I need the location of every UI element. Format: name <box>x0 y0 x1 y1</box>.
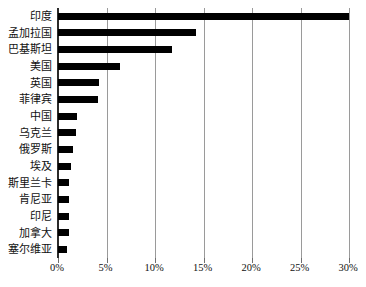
bar <box>58 179 69 186</box>
category-label: 中国 <box>30 108 52 125</box>
bar-row <box>58 25 349 42</box>
x-tick-label: 15% <box>193 262 212 273</box>
horizontal-bar-chart: 印度孟加拉国巴基斯坦美国英国菲律宾中国乌克兰俄罗斯埃及斯里兰卡肯尼亚印尼加拿大塞… <box>0 0 366 287</box>
x-tick-label: 0% <box>50 262 64 273</box>
category-label: 美国 <box>30 58 52 75</box>
plot-area <box>57 8 348 258</box>
bar-row <box>58 208 349 225</box>
category-label: 菲律宾 <box>19 91 52 108</box>
category-label: 英国 <box>30 75 52 92</box>
category-label: 孟加拉国 <box>8 25 52 42</box>
bar-row <box>58 175 349 192</box>
bar-row <box>58 241 349 258</box>
gridline-30pct <box>349 8 350 258</box>
bar <box>58 213 69 220</box>
bar <box>58 113 77 120</box>
category-label: 肯尼亚 <box>19 191 52 208</box>
bar-row <box>58 8 349 25</box>
bar <box>58 79 99 86</box>
bar-row <box>58 75 349 92</box>
bar <box>58 13 349 20</box>
bar <box>58 163 71 170</box>
bar-row <box>58 225 349 242</box>
category-axis-labels: 印度孟加拉国巴基斯坦美国英国菲律宾中国乌克兰俄罗斯埃及斯里兰卡肯尼亚印尼加拿大塞… <box>0 8 55 258</box>
bar <box>58 46 172 53</box>
category-label: 斯里兰卡 <box>8 175 52 192</box>
x-tick-label: 30% <box>338 262 357 273</box>
bar <box>58 146 73 153</box>
category-label: 乌克兰 <box>19 125 52 142</box>
category-label: 印度 <box>30 8 52 25</box>
category-label: 俄罗斯 <box>19 141 52 158</box>
category-label: 巴基斯坦 <box>8 41 52 58</box>
bar-row <box>58 108 349 125</box>
bar <box>58 246 67 253</box>
bar <box>58 229 69 236</box>
bar <box>58 129 76 136</box>
x-tick-label: 5% <box>99 262 113 273</box>
x-tick-label: 10% <box>144 262 163 273</box>
category-label: 加拿大 <box>19 225 52 242</box>
bar <box>58 29 196 36</box>
category-label: 印尼 <box>30 208 52 225</box>
x-tick-label: 20% <box>241 262 260 273</box>
bar-row <box>58 58 349 75</box>
bar-row <box>58 158 349 175</box>
bar <box>58 196 69 203</box>
category-label: 埃及 <box>30 158 52 175</box>
bar-row <box>58 91 349 108</box>
x-tick-label: 25% <box>290 262 309 273</box>
bar-row <box>58 141 349 158</box>
bar-row <box>58 41 349 58</box>
value-axis-labels: 0%5%10%15%20%25%30% <box>57 262 348 282</box>
bar <box>58 63 120 70</box>
bar-row <box>58 125 349 142</box>
bar <box>58 96 98 103</box>
category-label: 塞尔维亚 <box>8 241 52 258</box>
bar-row <box>58 191 349 208</box>
